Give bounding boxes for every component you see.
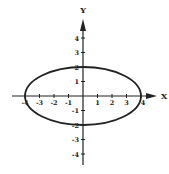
chart-container: YX-4-3-2-112344321-1-2-3-4 bbox=[0, 0, 169, 174]
y-axis-arrow-icon bbox=[80, 19, 86, 31]
ellipse-plot: YX-4-3-2-112344321-1-2-3-4 bbox=[0, 0, 169, 174]
x-tick-label: -2 bbox=[50, 99, 57, 107]
y-axis-label: Y bbox=[79, 5, 86, 15]
y-tick-label: -3 bbox=[72, 136, 80, 144]
y-tick-label: -4 bbox=[72, 151, 80, 159]
x-axis-arrow-icon bbox=[146, 93, 157, 99]
y-tick-label: 3 bbox=[74, 49, 79, 57]
x-axis-label: X bbox=[161, 91, 168, 101]
x-tick-label: -3 bbox=[36, 99, 44, 107]
x-tick-label: 3 bbox=[124, 99, 129, 107]
y-tick-label: 4 bbox=[74, 35, 79, 43]
x-tick-label: 1 bbox=[95, 99, 100, 107]
y-tick-label: 1 bbox=[74, 78, 79, 86]
y-tick-label: -1 bbox=[72, 107, 79, 115]
x-tick-label: 2 bbox=[110, 99, 115, 107]
x-tick-label: -1 bbox=[65, 99, 72, 107]
x-tick-label: 4 bbox=[141, 99, 146, 107]
